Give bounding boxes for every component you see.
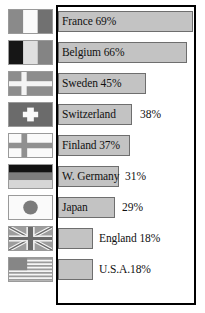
bar-value-japan: 29%	[122, 198, 143, 217]
bar-label-japan: Japan	[62, 198, 88, 217]
table-row: W. Germany 31%	[0, 161, 205, 192]
bar-label-finland: Finland 37%	[62, 136, 120, 155]
table-row: France 69%	[0, 6, 205, 37]
chart-rows: France 69% Belgium 66%	[0, 0, 205, 313]
table-row: England 18%	[0, 223, 205, 254]
flag-france-icon	[8, 9, 53, 34]
table-row: Finland 37%	[0, 130, 205, 161]
bar-label-france: France 69%	[62, 12, 116, 31]
flag-sweden-icon	[8, 71, 53, 96]
bar-value-west-germany: 31%	[125, 167, 146, 186]
bar-label-switzerland: Switzerland	[62, 105, 116, 124]
bar-label-england: England 18%	[99, 229, 160, 248]
flag-belgium-icon	[8, 40, 53, 65]
bar-label-west-germany: W. Germany	[62, 167, 119, 186]
flag-england-icon	[8, 226, 53, 251]
bar-label-usa: U.S.A.18%	[99, 260, 151, 279]
bar-value-switzerland: 38%	[140, 105, 161, 124]
bar-label-sweden: Sweden 45%	[62, 74, 121, 93]
table-row: Japan 29%	[0, 192, 205, 223]
table-row: Belgium 66%	[0, 37, 205, 68]
table-row: U.S.A.18%	[0, 254, 205, 285]
table-row: Switzerland 38%	[0, 99, 205, 130]
flag-bar-chart: France 69% Belgium 66%	[0, 0, 205, 313]
flag-west-germany-icon	[8, 164, 53, 189]
flag-usa-icon	[8, 257, 53, 282]
flag-switzerland-icon	[8, 102, 53, 127]
flag-japan-icon	[8, 195, 53, 220]
table-row: Sweden 45%	[0, 68, 205, 99]
flag-finland-icon	[8, 133, 53, 158]
bar-usa	[58, 259, 93, 280]
bar-england	[58, 228, 93, 249]
bar-label-belgium: Belgium 66%	[62, 43, 124, 62]
